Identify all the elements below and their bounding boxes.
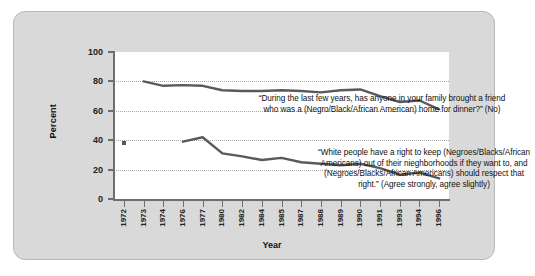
x-axis-tick-label: 1984 xyxy=(258,209,266,227)
x-axis-tick-label: 1980 xyxy=(218,209,226,227)
annotation-line: “White people have a right to keep (Negr… xyxy=(318,148,530,157)
y-axis-tick-label: 100 xyxy=(77,48,103,57)
y-axis-tick-label: 80 xyxy=(77,77,103,86)
x-axis-tick xyxy=(380,201,381,207)
x-axis-tick-label: 1990 xyxy=(356,209,364,227)
x-axis-tick-label: 1982 xyxy=(238,209,246,227)
annotation-line: Americans) out of their nieghborhoods if… xyxy=(321,159,528,168)
annotation-lower: “White people have a right to keep (Negr… xyxy=(310,148,535,190)
annotation-upper: “During the last few years, has anyone i… xyxy=(232,94,532,115)
x-axis-tick xyxy=(144,201,145,207)
x-axis-tick xyxy=(360,201,361,207)
x-axis-tick xyxy=(400,201,401,207)
x-axis-tick-label: 1993 xyxy=(396,209,404,227)
y-axis-tick-label: 0 xyxy=(77,195,103,204)
y-axis-tick xyxy=(108,198,114,200)
y-axis-tick xyxy=(108,80,114,82)
annotation-line: right.” (Agree strongly, agree slightly) xyxy=(358,180,490,189)
x-axis-tick-label: 1987 xyxy=(297,209,305,227)
y-axis-tick xyxy=(108,169,114,171)
chart-panel: Percent Year “During the last few years,… xyxy=(13,11,495,260)
x-axis-tick-label: 1994 xyxy=(415,209,423,227)
y-axis-tick-label: 20 xyxy=(77,166,103,175)
y-axis xyxy=(113,51,115,200)
y-axis-tick-label: 40 xyxy=(77,136,103,145)
x-axis-tick xyxy=(301,201,302,207)
x-axis-tick xyxy=(341,201,342,207)
x-axis-tick xyxy=(419,201,420,207)
y-axis-label: Percent xyxy=(48,104,58,138)
x-axis-tick xyxy=(222,201,223,207)
x-axis-tick-label: 1976 xyxy=(179,209,187,227)
x-axis-tick xyxy=(203,201,204,207)
x-axis-tick xyxy=(282,201,283,207)
x-axis-tick xyxy=(183,201,184,207)
x-axis-tick-label: 1972 xyxy=(120,209,128,227)
y-axis-tick xyxy=(108,110,114,112)
x-axis-tick-label: 1996 xyxy=(435,209,443,227)
x-axis-label: Year xyxy=(14,240,530,250)
y-axis-tick xyxy=(108,139,114,141)
data-point-marker-1972 xyxy=(122,141,126,145)
x-axis-tick xyxy=(163,201,164,207)
x-axis-tick xyxy=(439,201,440,207)
x-axis-tick-label: 1989 xyxy=(337,209,345,227)
x-axis-tick-label: 1977 xyxy=(199,209,207,227)
y-axis-tick xyxy=(108,51,114,53)
x-axis-tick-label: 1973 xyxy=(140,209,148,227)
plot-area: “During the last few years, has anyone i… xyxy=(114,52,449,199)
x-axis-tick-label: 1974 xyxy=(159,209,167,227)
x-axis-tick xyxy=(321,201,322,207)
x-axis-tick xyxy=(124,201,125,207)
y-axis-tick-label: 60 xyxy=(77,107,103,116)
x-axis-tick-label: 1988 xyxy=(317,209,325,227)
x-axis-tick-label: 1985 xyxy=(278,209,286,227)
annotation-line: “During the last few years, has anyone i… xyxy=(259,94,505,103)
annotation-line: who was a (Negro/Black/African American)… xyxy=(263,105,500,114)
x-axis-tick-label: 1991 xyxy=(376,209,384,227)
x-axis-tick xyxy=(242,201,243,207)
x-axis-tick xyxy=(262,201,263,207)
annotation-line: (Negroes/Blacks/African Americans) shoul… xyxy=(324,169,524,178)
